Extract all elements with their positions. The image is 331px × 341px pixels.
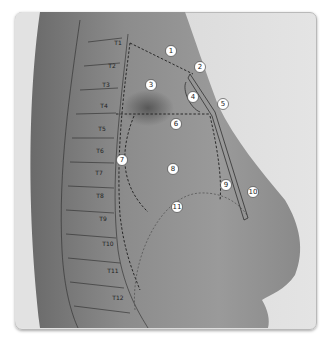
marker-7: 7 xyxy=(117,155,128,166)
svg-text:2: 2 xyxy=(198,63,202,71)
svg-text:3: 3 xyxy=(149,81,153,89)
marker-3: 3 xyxy=(146,80,157,91)
marker-10: 10 xyxy=(248,187,259,198)
vertebra-label-t5: T5 xyxy=(97,125,106,132)
torso-silhouette xyxy=(30,12,300,328)
vertebra-label-t7: T7 xyxy=(94,169,103,176)
vertebra-label-t2: T2 xyxy=(107,62,116,69)
marker-1: 1 xyxy=(166,46,177,57)
axilla-shadow xyxy=(122,90,174,126)
marker-5: 5 xyxy=(218,99,229,110)
anatomy-diagram: T1 T2 T3 T4 T5 T6 T7 T8 T9 T10 T11 T12 1… xyxy=(0,0,331,341)
vertebra-label-t10: T10 xyxy=(101,240,113,247)
svg-text:5: 5 xyxy=(221,100,225,108)
vertebra-label-t6: T6 xyxy=(95,147,104,154)
svg-text:11: 11 xyxy=(173,203,182,211)
marker-11: 11 xyxy=(172,202,183,213)
vertebra-label-t11: T11 xyxy=(106,267,118,274)
vertebra-label-t4: T4 xyxy=(99,102,108,109)
vertebra-label-t12: T12 xyxy=(111,294,123,301)
marker-4: 4 xyxy=(188,92,199,103)
svg-text:8: 8 xyxy=(171,165,175,173)
svg-text:9: 9 xyxy=(224,181,228,189)
marker-8: 8 xyxy=(168,164,179,175)
marker-9: 9 xyxy=(221,180,232,191)
vertebra-label-t9: T9 xyxy=(98,215,107,222)
svg-text:4: 4 xyxy=(191,93,196,101)
vertebra-label-t8: T8 xyxy=(95,192,104,199)
vertebra-label-t1: T1 xyxy=(113,39,122,46)
svg-text:10: 10 xyxy=(249,188,258,196)
vertebra-label-t3: T3 xyxy=(101,81,110,88)
svg-text:7: 7 xyxy=(120,156,124,164)
marker-6: 6 xyxy=(171,119,182,130)
marker-2: 2 xyxy=(195,62,206,73)
svg-text:1: 1 xyxy=(169,47,173,55)
svg-text:6: 6 xyxy=(174,120,179,128)
